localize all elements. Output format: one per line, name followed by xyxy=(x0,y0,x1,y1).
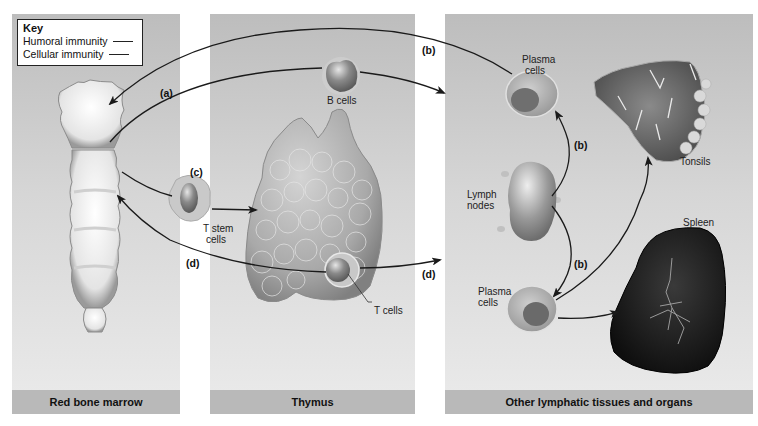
label-b-cells: B cells xyxy=(327,95,356,106)
label-lymph-1: Lymph xyxy=(467,189,497,200)
plasma-cell-bottom xyxy=(507,286,557,332)
label-lymph-2: nodes xyxy=(467,200,494,211)
bone-illustration xyxy=(58,80,124,332)
label-tonsils: Tonsils xyxy=(680,156,711,167)
arrow-c-1 xyxy=(122,172,172,196)
legend-title: Key xyxy=(23,22,137,35)
legend-item-humoral: Humoral immunity xyxy=(23,35,137,48)
label-plasma-bottom-1: Plasma xyxy=(478,286,511,297)
pathway-tag-b-top: (b) xyxy=(422,44,435,56)
label-plasma-top-2: cells xyxy=(525,65,545,76)
pathway-tag-d-left: (d) xyxy=(186,257,199,269)
label-spleen: Spleen xyxy=(683,217,714,228)
legend-line-humoral xyxy=(113,41,133,42)
arrow-a-2 xyxy=(360,72,444,93)
pathway-tag-b-low: (b) xyxy=(574,258,587,270)
label-plasma-top-1: Plasma xyxy=(522,54,555,65)
pathway-tag-d-right: (d) xyxy=(422,268,435,280)
pathway-tag-b-mid: (b) xyxy=(574,139,587,151)
arrow-to-spleen xyxy=(558,312,618,318)
legend-item-cellular: Cellular immunity xyxy=(23,48,137,61)
arrow-c-2 xyxy=(212,209,256,210)
label-t-stem-cells-1: T stem xyxy=(203,223,233,234)
pathway-tag-c: (c) xyxy=(190,166,203,178)
pathway-tag-a: (a) xyxy=(160,87,173,99)
lymph-node xyxy=(497,162,561,241)
label-t-cells: T cells xyxy=(374,305,403,316)
legend-label-humoral: Humoral immunity xyxy=(23,35,108,48)
thymus-illustration xyxy=(246,109,383,302)
arrow-b-low xyxy=(552,206,571,296)
plasma-cell-top xyxy=(506,71,558,117)
legend-key: Key Humoral immunity Cellular immunity xyxy=(17,19,143,66)
legend-line-cellular xyxy=(109,54,129,55)
spleen-illustration xyxy=(610,228,725,373)
b-cell xyxy=(322,57,360,95)
tonsils-illustration xyxy=(594,61,711,162)
label-t-stem-cells-2: cells xyxy=(206,234,226,245)
t-stem-cell xyxy=(169,175,210,221)
legend-label-cellular: Cellular immunity xyxy=(23,48,104,61)
label-plasma-bottom-2: cells xyxy=(478,297,498,308)
